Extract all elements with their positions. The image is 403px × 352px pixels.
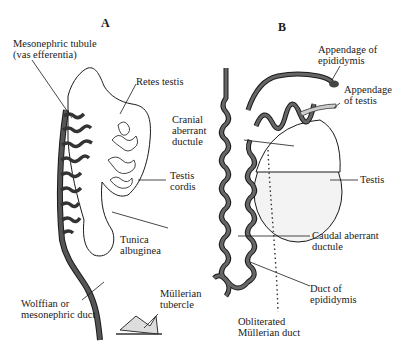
label-appendage-epididymis: Appendage of epididymis	[318, 44, 377, 66]
panel-label-a: A	[101, 16, 110, 31]
label-caudal-aberrant-ductule: Caudal aberrant ductule	[312, 230, 379, 252]
appendage-epididymis-shape	[329, 81, 339, 88]
label-retes-testis: Retes testis	[136, 76, 184, 87]
label-cranial-aberrant-ductule: Cranial aberrant ductule	[172, 114, 206, 147]
label-mesonephric-tubule: Mesonephric tubule (vas efferentia)	[13, 38, 97, 60]
testis-cordis-network	[108, 122, 138, 188]
label-testis: Testis	[360, 174, 384, 185]
leader-lines-a	[32, 60, 168, 328]
label-tunica-albuginea: Tunica albuginea	[120, 234, 161, 256]
label-duct-of-epididymis: Duct of epididymis	[310, 283, 357, 305]
label-testis-cordis: Testis cordis	[170, 170, 196, 192]
panel-label-b: B	[278, 20, 286, 35]
mullerian-tubercle-shape	[120, 316, 158, 334]
label-obliterated-mullerian-duct: Obliterated Müllerian duct	[238, 316, 300, 338]
label-appendage-testis: Appendage of testis	[344, 84, 392, 106]
label-wolffian-duct: Wolffian or mesonephric duct	[21, 298, 95, 320]
diagram-figure: A B Mesonephric tubule (vas efferentia) …	[0, 0, 403, 352]
appendage-testis-shape	[300, 104, 336, 116]
label-mullerian-tubercle: Müllerian tubercle	[160, 288, 201, 310]
